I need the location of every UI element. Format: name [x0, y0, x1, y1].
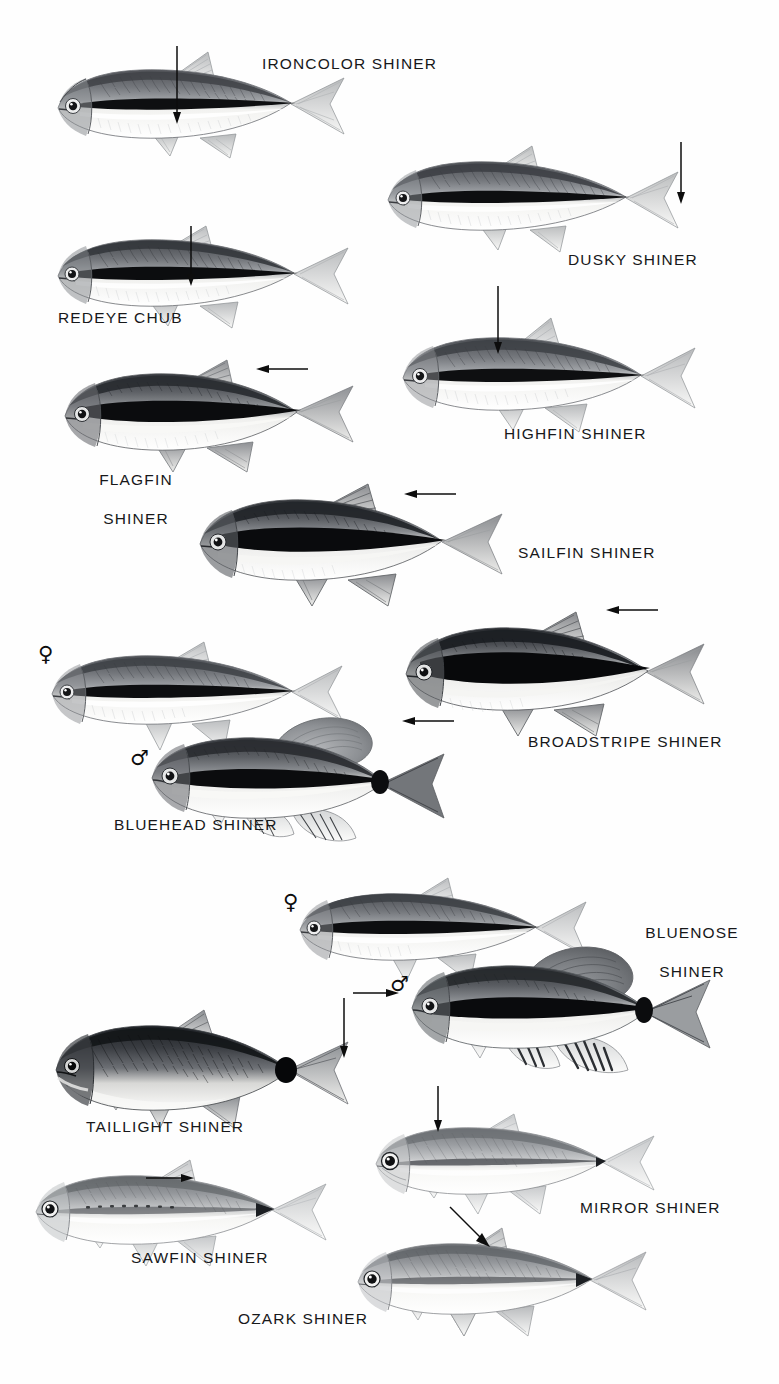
species-label-mirror-shiner: MIRROR SHINER — [580, 1198, 721, 1218]
fish-ozark-shiner — [350, 1222, 654, 1344]
arrow-diagonal-ozark — [448, 1205, 496, 1253]
species-label-flagfin-shiner: FLAGFIN SHINER — [82, 450, 190, 529]
arrow-left-broadstripe — [606, 603, 658, 617]
species-label-ironcolor-shiner: IRONCOLOR SHINER — [262, 54, 437, 74]
arrow-left-flagfin — [256, 362, 308, 376]
species-label-bluenose-shiner: BLUENOSE SHINER — [632, 903, 752, 982]
fish-highfin-shiner — [395, 316, 699, 438]
arrow-down-redeye-chub — [184, 226, 198, 288]
species-label-flagfin-line1: FLAGFIN — [99, 471, 173, 488]
species-label-ozark-shiner: OZARK SHINER — [238, 1309, 368, 1329]
illustration-plate: ♀ ♂ ♀ ♂ IRONCOLOR SHINER DUSKY SHINER RE… — [0, 0, 779, 1384]
male-symbol-bluenose: ♂ — [390, 974, 409, 995]
species-label-bluehead-shiner: BLUEHEAD SHINER — [114, 815, 278, 835]
species-label-broadstripe-shiner: BROADSTRIPE SHINER — [528, 732, 723, 752]
species-label-bluenose-line2: SHINER — [659, 963, 724, 980]
fish-taillight-shiner — [48, 1000, 354, 1134]
arrow-down-taillight — [337, 998, 351, 1060]
fish-dusky-shiner — [380, 142, 682, 260]
species-label-sailfin-shiner: SAILFIN SHINER — [518, 543, 656, 563]
arrow-down-mirror — [431, 1086, 445, 1134]
species-label-sawfin-shiner: SAWFIN SHINER — [131, 1248, 269, 1268]
arrow-down-ironcolor — [170, 46, 184, 126]
fish-sailfin-shiner — [192, 478, 508, 612]
arrow-down-dusky — [674, 142, 688, 206]
arrow-left-sailfin — [404, 487, 456, 501]
species-label-bluenose-line1: BLUENOSE — [645, 924, 739, 941]
male-symbol-bluehead: ♂ — [130, 748, 149, 769]
species-label-taillight-shiner: TAILLIGHT SHINER — [86, 1117, 244, 1137]
species-label-dusky-shiner: DUSKY SHINER — [568, 250, 698, 270]
female-symbol-bluehead: ♀ — [38, 644, 53, 665]
arrow-right-sawfin — [146, 1171, 194, 1185]
arrow-down-highfin — [491, 286, 505, 356]
species-label-flagfin-line2: SHINER — [103, 510, 168, 527]
species-label-redeye-chub: REDEYE CHUB — [58, 308, 183, 328]
arrow-left-bluehead-male — [402, 714, 454, 728]
female-symbol-bluenose: ♀ — [283, 892, 298, 913]
species-label-highfin-shiner: HIGHFIN SHINER — [504, 424, 647, 444]
